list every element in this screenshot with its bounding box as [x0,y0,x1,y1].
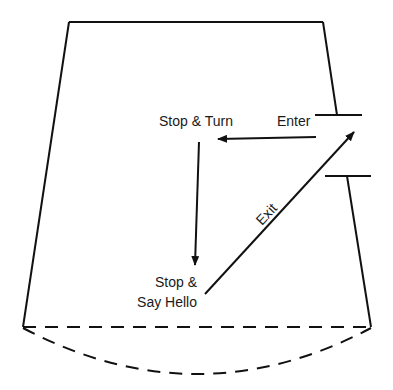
front-arc-dashed [23,328,371,374]
arrow-turn-to-hello [195,142,199,265]
right-wall-upper [323,22,337,115]
left-wall [23,22,69,327]
right-wall-lower [347,176,371,327]
stop-hello-label-line2: Say Hello [137,294,197,310]
exit-label: Exit [252,200,280,228]
arrow-enter-to-turn [218,137,316,139]
stop-hello-label-line1: Stop & [155,274,198,290]
stop-turn-label: Stop & Turn [159,113,233,129]
enter-label: Enter [277,113,311,129]
arrow-hello-to-exit [205,132,354,294]
diagram-canvas: Enter Stop & Turn Stop & Say Hello Exit [0,0,393,390]
